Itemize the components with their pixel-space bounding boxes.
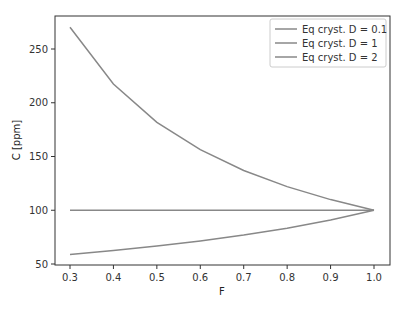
x-tick-label: 0.6 bbox=[192, 272, 208, 283]
y-tick-label: 150 bbox=[29, 151, 48, 162]
x-tick-label: 0.9 bbox=[323, 272, 339, 283]
legend: Eq cryst. D = 0.1 Eq cryst. D = 1 Eq cry… bbox=[270, 19, 387, 67]
x-tick-label: 0.8 bbox=[279, 272, 295, 283]
y-tick-label: 100 bbox=[29, 205, 48, 216]
x-tick-label: 0.5 bbox=[149, 272, 165, 283]
x-axis-label: F bbox=[219, 286, 225, 297]
legend-label: Eq cryst. D = 2 bbox=[302, 52, 378, 63]
y-axis-label: C [ppm] bbox=[11, 120, 22, 160]
legend-label: Eq cryst. D = 0.1 bbox=[302, 24, 387, 35]
y-tick-label: 50 bbox=[35, 259, 48, 270]
x-tick-label: 1.0 bbox=[366, 272, 382, 283]
x-tick-label: 0.4 bbox=[105, 272, 121, 283]
y-tick-label: 200 bbox=[29, 97, 48, 108]
legend-label: Eq cryst. D = 1 bbox=[302, 38, 378, 49]
line-chart: 0.30.40.50.60.70.80.91.0 50100150200250 … bbox=[0, 0, 406, 309]
x-tick-label: 0.7 bbox=[236, 272, 252, 283]
y-tick-label: 250 bbox=[29, 44, 48, 55]
x-tick-label: 0.3 bbox=[62, 272, 78, 283]
